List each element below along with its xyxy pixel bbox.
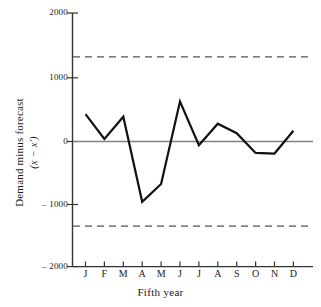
y-tick-neg2000: – 2000 [26,261,68,273]
x-tick-label: O [247,268,265,279]
y-tick-label: 2000 [26,7,68,17]
x-tick-label: J [171,268,189,279]
x-tick-label: J [77,268,95,279]
x-tick-label: D [284,268,302,279]
y-axis-title-line1: Demand minus forecast [13,98,25,207]
y-tick-2000: 2000 [26,7,68,19]
y-axis-title: Demand minus forecast (x − x′) [12,63,41,243]
x-tick-label: A [133,268,151,279]
data-series-line [86,102,294,202]
y-axis-title-line2: (x − x′) [27,63,41,243]
x-tick-label: J [190,268,208,279]
x-tick-label: A [209,268,227,279]
x-tick-label: F [95,268,113,279]
x-tick-label: S [228,268,246,279]
y-tick-label: – 2000 [26,261,68,271]
x-axis-title: Fifth year [0,286,321,298]
x-tick-label: M [152,268,170,279]
x-tick-label: N [266,268,284,279]
x-axis-ticks [86,262,294,267]
x-tick-label: M [114,268,132,279]
chart-figure: 2000 1000 0 – 1000 – 2000 JFMAMJJASOND F… [0,0,321,307]
